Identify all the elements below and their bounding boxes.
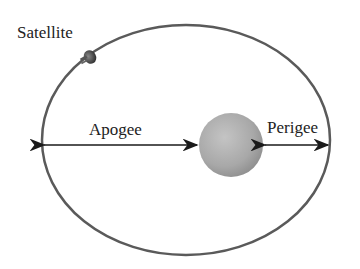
perigee-label: Perigee bbox=[267, 119, 318, 136]
satellite-label: Satellite bbox=[17, 24, 73, 41]
apogee-label: Apogee bbox=[89, 121, 142, 138]
planet bbox=[199, 113, 263, 177]
